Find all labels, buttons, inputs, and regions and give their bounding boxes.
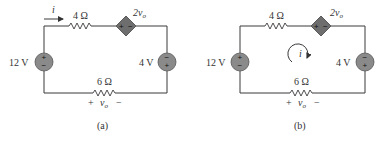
vo-label: vo: [298, 97, 306, 110]
circuit-panel-b: 4 Ω 6 Ω + − 2vo + − 12 V − + 4 V i + vo …: [206, 7, 374, 132]
resistor-bottom-icon: [290, 90, 312, 96]
dep-plus: +: [314, 22, 319, 31]
resistor-bottom-label: 6 Ω: [97, 76, 112, 87]
mesh-current-label: i: [299, 48, 302, 59]
caption-b: (b): [294, 120, 306, 132]
resistor-top-label: 4 Ω: [269, 10, 284, 21]
current-label: i: [52, 4, 55, 15]
source-right-label: 4 V: [336, 57, 351, 68]
src-left-minus: −: [238, 61, 243, 70]
resistor-top-label: 4 Ω: [73, 10, 88, 21]
source-left-label: 12 V: [9, 57, 29, 68]
vo-plus: +: [286, 97, 292, 108]
circuit-figure: 4 Ω 6 Ω + − 2vo + − 12 V − + 4 V i + vo …: [0, 0, 383, 144]
resistor-bottom-label: 6 Ω: [294, 76, 309, 87]
src-left-minus: −: [42, 61, 47, 70]
src-right-plus: +: [165, 61, 170, 70]
circuit-panel-a: 4 Ω 6 Ω + − 2vo + − 12 V − + 4 V i + vo …: [9, 4, 176, 132]
dependent-source-label: 2vo: [330, 7, 343, 20]
source-right-label: 4 V: [139, 57, 154, 68]
vo-minus: −: [314, 97, 320, 108]
caption-a: (a): [97, 120, 108, 132]
dep-minus: −: [323, 22, 328, 31]
resistor-top-icon: [69, 23, 91, 29]
mesh-current-loop-icon: [288, 44, 308, 62]
dep-minus: −: [128, 22, 133, 31]
resistor-top-icon: [265, 23, 287, 29]
dep-plus: +: [119, 22, 124, 31]
dependent-source-label: 2vo: [133, 7, 146, 20]
resistor-bottom-icon: [93, 90, 115, 96]
source-left-label: 12 V: [206, 57, 226, 68]
vo-label: vo: [100, 97, 108, 110]
vo-minus: −: [116, 97, 122, 108]
src-right-plus: +: [363, 61, 368, 70]
vo-plus: +: [88, 97, 94, 108]
